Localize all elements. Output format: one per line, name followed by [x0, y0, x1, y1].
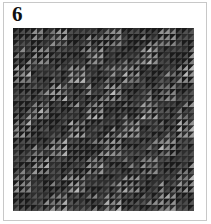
triangle-tiles-image — [13, 28, 194, 211]
triangle-pattern — [13, 28, 194, 211]
figure-label: 6 — [12, 3, 23, 25]
